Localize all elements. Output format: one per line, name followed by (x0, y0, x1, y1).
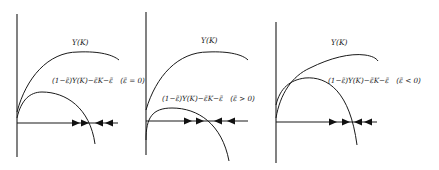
arrow-right-icon (196, 118, 204, 125)
arrow-left-icon (227, 118, 235, 125)
lower-curve-label: (1−ε̃)Y(K)−ε̃K−ε̃ (ε̃ < 0) (328, 76, 421, 85)
arrow-right-icon (184, 118, 192, 125)
lower-curve-label: (1−ε̃)Y(K)−ε̃K−ε̃ (ε̃ > 0) (162, 94, 255, 103)
arrow-left-icon (214, 118, 222, 125)
arrow-right-icon (329, 119, 337, 126)
upper-curve-label: Y(K) (331, 38, 347, 47)
arrow-left-icon (364, 119, 372, 126)
panel-1: Y(K) (1−ε̃)Y(K)−ε̃K−ε̃ (ε̃ = 0) (17, 14, 145, 157)
panel-2: Y(K) (1−ε̃)Y(K)−ε̃K−ε̃ (ε̃ > 0) (146, 12, 255, 161)
net-output-curve (276, 78, 357, 145)
lower-curve-label: (1−ε̃)Y(K)−ε̃K−ε̃ (ε̃ = 0) (52, 76, 145, 85)
panel-3: Y(K) (1−ε̃)Y(K)−ε̃K−ε̃ (ε̃ < 0) (276, 22, 421, 163)
arrow-right-icon (342, 119, 350, 126)
arrow-right-icon (72, 120, 80, 127)
y-of-k-curve (276, 55, 378, 118)
arrow-left-icon (354, 119, 362, 126)
upper-curve-label: Y(K) (72, 38, 88, 47)
arrow-left-icon (95, 120, 103, 127)
upper-curve-label: Y(K) (201, 36, 217, 45)
arrow-left-icon (105, 120, 113, 127)
net-output-curve (146, 108, 229, 161)
net-output-curve (17, 92, 95, 144)
diagram-canvas: Y(K) (1−ε̃)Y(K)−ε̃K−ε̃ (ε̃ = 0) Y(K) (1−… (0, 0, 439, 170)
